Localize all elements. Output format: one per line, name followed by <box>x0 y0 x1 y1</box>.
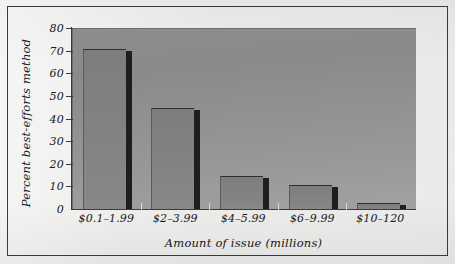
bar-body <box>83 49 126 210</box>
y-axis-tick <box>66 51 73 52</box>
x-axis-category-label: $0.1–1.99 <box>72 212 141 225</box>
figure-container: 80706050403020100 $0.1–1.99$2–3.99$4–5.9… <box>0 0 455 264</box>
bar-body <box>151 108 194 210</box>
bar-shadow <box>263 178 269 210</box>
x-axis-title: Amount of issue (millions) <box>72 236 415 250</box>
y-axis-title: Percent best-efforts method <box>19 33 33 213</box>
y-axis-tick-label: 60 <box>50 67 64 80</box>
bar-shadow <box>126 51 132 210</box>
x-axis-line <box>71 209 416 210</box>
x-axis-tick <box>141 203 142 210</box>
y-axis-tick-label: 30 <box>50 135 64 148</box>
x-axis-category-label: $6–9.99 <box>278 212 347 225</box>
x-axis-category-label: $10–120 <box>346 212 415 225</box>
bar-body <box>289 185 332 210</box>
x-axis-tick <box>278 203 279 210</box>
y-axis-tick <box>66 141 73 142</box>
y-axis-tick <box>66 164 73 165</box>
y-axis-tick <box>66 119 73 120</box>
plot-area <box>72 28 416 210</box>
y-axis-tick-label: 20 <box>50 158 64 171</box>
x-axis-tick <box>209 203 210 210</box>
y-axis-tick-label: 50 <box>50 90 64 103</box>
bar-body <box>220 176 263 210</box>
y-axis-tick-label: 80 <box>50 22 64 35</box>
bar <box>83 49 132 210</box>
y-axis-tick-label: 0 <box>57 203 64 216</box>
bar <box>220 176 269 210</box>
y-axis-tick <box>66 73 73 74</box>
x-axis-category-label: $2–3.99 <box>141 212 210 225</box>
y-axis-tick <box>66 96 73 97</box>
x-axis-category-label: $4–5.99 <box>209 212 278 225</box>
y-axis-tick-label: 40 <box>50 113 64 126</box>
bar-shadow <box>194 110 200 210</box>
bar <box>289 185 338 210</box>
bar <box>151 108 200 210</box>
bar-shadow <box>332 187 338 210</box>
bars-container <box>73 29 416 210</box>
y-axis-tick-label: 10 <box>50 180 64 193</box>
y-axis-tick <box>66 28 73 29</box>
y-axis-tick <box>66 186 73 187</box>
y-axis-tick-label: 70 <box>50 45 64 58</box>
x-axis-tick <box>346 203 347 210</box>
